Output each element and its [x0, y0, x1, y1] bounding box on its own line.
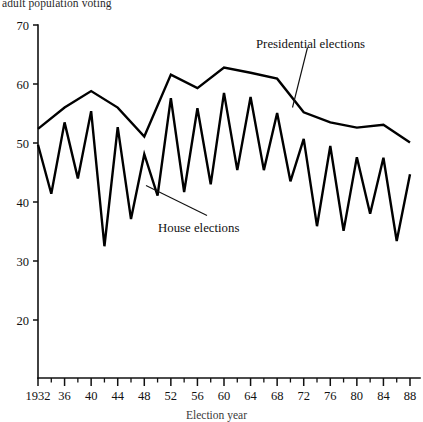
- x-tick-label: 48: [138, 389, 151, 403]
- x-tick-label: 72: [297, 389, 310, 403]
- presidential-annotation-label: Presidential elections: [256, 37, 365, 51]
- x-tick-label: 60: [218, 389, 231, 403]
- y-tick-label: 50: [17, 137, 30, 151]
- chart-bottom-caption: Election year: [186, 408, 247, 422]
- x-tick-label: 1932: [26, 389, 51, 403]
- y-tick-label: 20: [17, 314, 30, 328]
- y-axis-tick-labels: 203040506070: [17, 19, 30, 328]
- x-tick-label: 44: [111, 389, 124, 403]
- x-tick-label: 80: [351, 389, 364, 403]
- x-tick-label: 88: [404, 389, 417, 403]
- x-tick-label: 84: [377, 389, 390, 403]
- x-tick-label: 40: [85, 389, 98, 403]
- x-tick-label: 36: [58, 389, 71, 403]
- y-tick-label: 40: [17, 196, 30, 210]
- x-tick-label: 56: [191, 389, 204, 403]
- y-tick-label: 60: [17, 78, 30, 92]
- x-axis-major-ticks: [38, 378, 410, 386]
- axes-group: [38, 25, 420, 378]
- y-tick-label: 70: [17, 19, 30, 33]
- x-tick-label: 68: [271, 389, 284, 403]
- y-tick-label: 30: [17, 255, 30, 269]
- presidential-leader-line: [293, 48, 308, 108]
- x-axis-tick-labels: 19323640444852566064687276808488: [26, 389, 417, 403]
- house-leader-line: [146, 186, 207, 216]
- x-tick-label: 52: [165, 389, 178, 403]
- house-annotation-label: House elections: [158, 221, 239, 235]
- x-tick-label: 64: [244, 389, 257, 403]
- x-tick-label: 76: [324, 389, 337, 403]
